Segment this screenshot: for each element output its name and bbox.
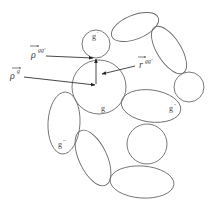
- particle-bottom-ellipse: [109, 164, 175, 200]
- vector-label-rho-g: ρ g: [9, 68, 21, 81]
- r-gg-base: r: [139, 59, 143, 70]
- rho-g-sup: g: [17, 68, 20, 74]
- vector-label-r-gg: r gg': [138, 57, 153, 70]
- vectors: [24, 56, 135, 85]
- rho-gg-base: ρ: [30, 49, 36, 60]
- particle-lower-left-ellipse: [68, 125, 119, 191]
- particle-middle-lower-circle: [127, 124, 167, 164]
- r-gg-sup: gg': [145, 58, 153, 64]
- g-double-base: g: [169, 104, 173, 113]
- particle-g: [72, 60, 126, 114]
- particle-right-tall-ellipse: [145, 21, 194, 80]
- particle-label-g: g: [101, 104, 105, 113]
- particle-g-prime: [82, 30, 110, 58]
- g-prime-sup: ': [97, 31, 98, 36]
- vector-rho-g-arrow: [24, 77, 95, 85]
- particle-label-g-prime: g ': [92, 31, 98, 41]
- g-triple-sup: ''': [63, 139, 66, 144]
- vector-label-rho-gg: ρ gg': [30, 46, 46, 60]
- vector-r-gg-arrow: [102, 66, 135, 74]
- particle-cluster-diagram: ρ g ρ gg' r gg' g ' g g '' g ''': [0, 0, 213, 209]
- g-double-sup: '': [174, 103, 176, 108]
- g-prime-base: g: [92, 32, 96, 41]
- particles: [46, 7, 204, 201]
- particle-right-circle: [174, 72, 204, 102]
- particle-label-g-triple-prime: g ''': [58, 139, 66, 149]
- vector-rho-gg-arrow: [46, 56, 93, 58]
- rho-gg-sup: gg': [38, 47, 46, 53]
- g-triple-base: g: [58, 140, 62, 149]
- g-base: g: [101, 104, 105, 113]
- particle-g-triple-prime: [46, 91, 81, 155]
- rho-g-base: ρ: [9, 70, 15, 81]
- particle-label-g-double-prime: g '': [169, 103, 176, 113]
